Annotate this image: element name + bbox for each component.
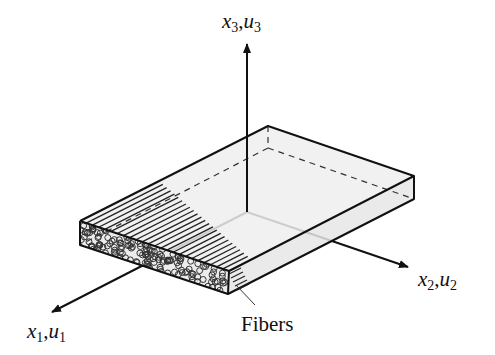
x3-var: x [222, 9, 231, 33]
u1-sub: 1 [59, 330, 66, 345]
x1-axis-label: x1,u1 [27, 321, 66, 345]
u2-var: u [440, 267, 451, 291]
u2-sub: 2 [450, 278, 457, 293]
x1-var: x [27, 319, 36, 343]
u3-sub: 3 [254, 20, 261, 35]
lamina-diagram [0, 0, 495, 355]
x3-axis-label: x3,u3 [222, 11, 261, 35]
x2-var: x [418, 267, 427, 291]
x2-axis-label: x2,u2 [418, 269, 457, 293]
u3-var: u [244, 9, 255, 33]
fibers-leader-line [236, 285, 255, 305]
fibers-label: Fibers [241, 314, 294, 335]
u1-var: u [49, 319, 60, 343]
